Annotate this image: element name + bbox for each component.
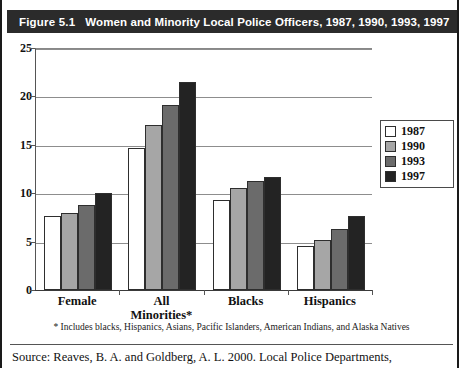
category-label-line: Hispanics	[288, 294, 372, 308]
y-axis-tick-mark	[30, 290, 35, 291]
x-axis-tick-mark	[372, 290, 373, 295]
legend-swatch	[385, 171, 396, 182]
legend-label: 1997	[401, 169, 425, 184]
y-axis-tick-label: 5	[6, 234, 32, 249]
bar	[95, 193, 112, 290]
figure-footnote: * Includes blacks, Hispanics, Asians, Pa…	[12, 322, 451, 332]
figure-title: Women and Minority Local Police Officers…	[75, 16, 449, 28]
bar	[78, 205, 95, 290]
category-label-line: All	[119, 294, 203, 308]
source-divider	[10, 344, 453, 345]
figure-title-band: Figure 5.1 Women and Minority Local Poli…	[7, 10, 457, 33]
y-axis-tick-mark	[30, 48, 35, 49]
y-axis-tick-mark	[30, 193, 35, 194]
bar	[44, 216, 61, 290]
bar-group	[297, 49, 365, 290]
legend-label: 1987	[401, 124, 425, 139]
legend-item: 1990	[385, 139, 449, 154]
legend-swatch	[385, 126, 396, 137]
bar-group	[128, 49, 196, 290]
category-label-line: Minorities*	[119, 308, 203, 322]
bar	[247, 181, 264, 290]
bar	[230, 188, 247, 290]
bar-group	[44, 49, 112, 290]
bar	[145, 125, 162, 290]
bar	[213, 200, 230, 290]
bar	[297, 246, 314, 290]
x-axis-category-label: AllMinorities*	[119, 294, 203, 322]
legend-item: 1993	[385, 154, 449, 169]
y-axis-labels: 0510152025	[2, 0, 32, 368]
legend-label: 1990	[401, 139, 425, 154]
bar	[331, 229, 348, 290]
bar	[162, 105, 179, 290]
y-axis-tick-mark	[30, 145, 35, 146]
bar	[128, 148, 145, 290]
bar	[348, 216, 365, 290]
x-axis-category-label: Hispanics	[288, 294, 372, 308]
chart-legend: 1987199019931997	[380, 120, 454, 188]
y-axis-tick-label: 20	[6, 89, 32, 104]
legend-item: 1997	[385, 169, 449, 184]
y-axis-tick-mark	[30, 242, 35, 243]
bar-group	[213, 49, 281, 290]
figure-source: Source: Reaves, B. A. and Goldberg, A. L…	[12, 350, 449, 366]
category-label-line: Blacks	[204, 294, 288, 308]
x-axis-category-label: Female	[35, 294, 119, 308]
y-axis-tick-label: 15	[6, 137, 32, 152]
y-axis-tick-mark	[30, 96, 35, 97]
legend-item: 1987	[385, 124, 449, 139]
y-axis-tick-label: 25	[6, 41, 32, 56]
legend-label: 1993	[401, 154, 425, 169]
legend-swatch	[385, 156, 396, 167]
bar	[61, 213, 78, 290]
chart-plot-area	[35, 48, 372, 290]
y-axis-tick-label: 0	[6, 283, 32, 298]
bar	[179, 82, 196, 290]
y-axis-tick-label: 10	[6, 186, 32, 201]
bar	[314, 240, 331, 290]
bar	[264, 177, 281, 290]
category-label-line: Female	[35, 294, 119, 308]
legend-swatch	[385, 141, 396, 152]
figure-container: Figure 5.1 Women and Minority Local Poli…	[0, 0, 459, 368]
x-axis-category-label: Blacks	[204, 294, 288, 308]
